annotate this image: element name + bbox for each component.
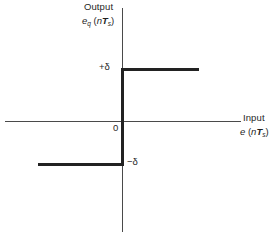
curve-segment-jump-at-origin <box>121 68 124 166</box>
y-tick-label-negative-delta: −δ <box>127 157 138 168</box>
x-axis-variable-paren-close: ) <box>265 126 268 137</box>
y-axis-variable-arg-subscript: s <box>108 20 111 27</box>
x-axis-title: Input <box>243 113 265 124</box>
y-axis-variable-paren-close: ) <box>111 15 114 26</box>
x-axis-variable: e (nTs) <box>240 127 269 138</box>
y-axis-variable: eq (nTs) <box>82 16 114 27</box>
origin-label: 0 <box>113 123 118 134</box>
y-axis-variable-arg-T: T <box>102 15 108 26</box>
x-axis-variable-arg-subscript: s <box>262 131 265 138</box>
y-axis-variable-subscript: q <box>87 20 91 27</box>
curve-segment-negative-plateau <box>38 163 123 166</box>
y-axis-title: Output <box>84 2 113 13</box>
y-tick-label-positive-delta: +δ <box>99 62 110 73</box>
curve-segment-positive-plateau <box>121 68 199 71</box>
quantizer-transfer-characteristic-figure: Output eq (nTs) Input e (nTs) +δ −δ 0 <box>0 0 273 236</box>
